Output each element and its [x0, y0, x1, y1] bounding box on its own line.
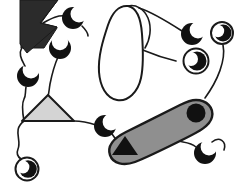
eye-group — [0, 0, 238, 187]
abstract-figure — [0, 0, 238, 187]
figure-canvas — [0, 0, 238, 187]
eye-bottom-left-pupil — [0, 0, 238, 187]
